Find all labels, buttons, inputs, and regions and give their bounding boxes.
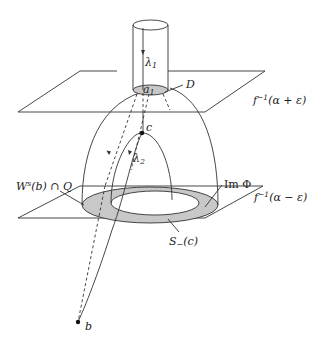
critical-point-c — [140, 131, 144, 135]
annulus-im-phi — [82, 187, 218, 223]
label-d: D — [185, 78, 195, 91]
morse-theory-diagram: λ1 a1 D f−1(α + ε) c λ2 Ws(b) ∩ Q Im Φ f… — [0, 0, 318, 348]
label-lambda2: λ2 — [132, 152, 145, 166]
label-im-phi: Im Φ — [224, 178, 251, 191]
label-lambda1: λ1 — [144, 56, 157, 70]
label-ws-b-cap-q: Ws(b) ∩ Q — [16, 179, 72, 193]
label-s-minus-c: S−(c) — [169, 235, 198, 249]
cylinder — [133, 20, 168, 90]
flow-line-lambda1 — [141, 28, 145, 133]
point-b — [76, 320, 80, 324]
label-b: b — [85, 320, 92, 333]
label-lower-level-set: f−1(α − ε) — [253, 190, 307, 204]
label-c: c — [146, 121, 152, 134]
label-upper-level-set: f−1(α + ε) — [252, 93, 306, 107]
